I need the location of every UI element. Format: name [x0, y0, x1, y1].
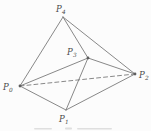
vertex-dot-P2 — [134, 73, 137, 76]
edges-group — [20, 17, 135, 110]
caption-remnant-mark-2 — [77, 128, 112, 130]
polyhedron-svg: P0P1P2P3P4 — [0, 0, 151, 131]
vertex-dot-P3 — [87, 57, 90, 60]
vertex-label-P1: P1 — [58, 114, 69, 125]
edge-P0-P2-hidden — [20, 74, 135, 86]
caption-remnant-mark-1 — [65, 128, 72, 130]
vertex-labels-group: P0P1P2P3P4 — [2, 4, 149, 125]
cropped-caption-remnant — [34, 128, 112, 130]
caption-remnant-mark-0 — [34, 128, 52, 130]
edge-P3-P2 — [88, 58, 135, 74]
edge-P1-P2 — [66, 74, 135, 110]
vertex-label-P0: P0 — [2, 82, 13, 93]
edge-P0-P1 — [20, 86, 66, 110]
edge-P4-P2 — [63, 17, 135, 74]
vertex-label-P3: P3 — [66, 47, 77, 58]
edge-P4-P0 — [20, 17, 63, 86]
vertex-dot-P0 — [19, 85, 22, 88]
vertex-label-P2: P2 — [138, 70, 149, 81]
figure-canvas: P0P1P2P3P4 — [0, 0, 151, 131]
vertex-label-P4: P4 — [55, 4, 66, 15]
